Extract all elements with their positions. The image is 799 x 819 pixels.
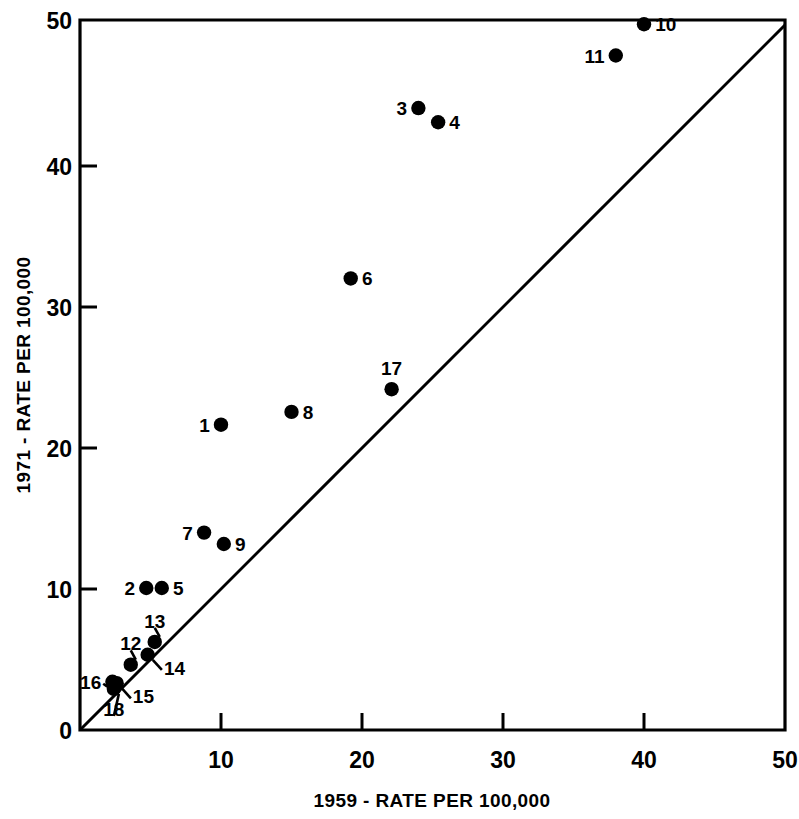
data-point-2: 2	[124, 578, 153, 599]
data-point-marker-10	[637, 17, 651, 31]
data-point-marker-2	[139, 581, 153, 595]
x-axis-ticks	[221, 713, 644, 730]
data-point-9: 9	[217, 534, 246, 555]
x-tick-label-40: 40	[631, 747, 657, 773]
data-point-label-7: 7	[182, 523, 193, 544]
x-tick-label-30: 30	[490, 747, 516, 773]
x-tick-label-20: 20	[349, 747, 375, 773]
data-point-label-10: 10	[655, 14, 676, 35]
y-tick-label-20: 20	[46, 436, 72, 462]
data-point-1: 1	[199, 415, 228, 436]
data-point-8: 8	[284, 402, 313, 423]
data-point-label-5: 5	[173, 578, 184, 599]
data-point-label-4: 4	[449, 112, 460, 133]
data-point-label-3: 3	[397, 98, 408, 119]
data-point-label-13: 13	[144, 611, 165, 632]
data-point-6: 6	[344, 268, 373, 289]
data-point-label-15: 15	[133, 686, 155, 707]
data-point-marker-14	[140, 648, 154, 662]
data-point-12: 12	[120, 633, 141, 671]
data-points-layer: 123456789101112131415161718	[80, 14, 676, 720]
label-leader-14	[153, 660, 162, 670]
y-axis-title: 1971 - RATE PER 100,000	[13, 257, 34, 494]
x-tick-label-50: 50	[772, 747, 798, 773]
y-axis-ticks	[80, 166, 97, 589]
data-point-label-12: 12	[120, 633, 141, 654]
data-point-label-9: 9	[235, 534, 246, 555]
data-point-label-2: 2	[124, 578, 135, 599]
data-point-label-18: 18	[103, 699, 124, 720]
plot-canvas: 50 40 30 20 10 0 10 20 30 40 50 1959 - R…	[0, 0, 799, 819]
data-point-label-16: 16	[80, 672, 101, 693]
y-tick-label-10: 10	[46, 577, 72, 603]
data-point-3: 3	[397, 98, 426, 119]
identity-reference-line	[80, 25, 785, 730]
label-leader-15	[122, 688, 131, 698]
data-point-marker-3	[411, 101, 425, 115]
data-point-17: 17	[381, 358, 402, 396]
data-point-marker-18	[107, 682, 121, 696]
data-point-label-6: 6	[362, 268, 373, 289]
y-tick-label-0: 0	[59, 718, 72, 744]
y-tick-label-40: 40	[46, 154, 72, 180]
data-point-marker-7	[197, 525, 211, 539]
data-point-11: 11	[585, 46, 623, 67]
y-tick-label-50: 50	[46, 8, 72, 34]
data-point-label-14: 14	[164, 658, 186, 679]
data-point-marker-13	[148, 635, 162, 649]
data-point-10: 10	[637, 14, 677, 35]
data-point-13: 13	[144, 611, 165, 649]
x-axis-title: 1959 - RATE PER 100,000	[314, 790, 551, 811]
data-point-7: 7	[182, 523, 211, 544]
data-point-4: 4	[431, 112, 460, 133]
x-tick-labels: 10 20 30 40 50	[208, 747, 798, 773]
x-tick-label-10: 10	[208, 747, 234, 773]
data-point-label-8: 8	[303, 402, 314, 423]
data-point-marker-4	[431, 115, 445, 129]
data-point-label-1: 1	[199, 415, 210, 436]
data-point-marker-1	[214, 418, 228, 432]
data-point-label-17: 17	[381, 358, 402, 379]
data-point-marker-17	[384, 382, 398, 396]
data-point-marker-9	[217, 537, 231, 551]
data-point-marker-5	[155, 581, 169, 595]
data-point-marker-11	[609, 48, 623, 62]
y-tick-label-30: 30	[46, 295, 72, 321]
data-point-marker-6	[344, 271, 358, 285]
data-point-5: 5	[155, 578, 184, 599]
y-tick-labels: 50 40 30 20 10 0	[46, 8, 72, 744]
data-point-marker-8	[284, 405, 298, 419]
data-point-marker-12	[124, 657, 138, 671]
data-point-label-11: 11	[585, 46, 606, 67]
scatter-plot-figure: 50 40 30 20 10 0 10 20 30 40 50 1959 - R…	[0, 0, 799, 819]
